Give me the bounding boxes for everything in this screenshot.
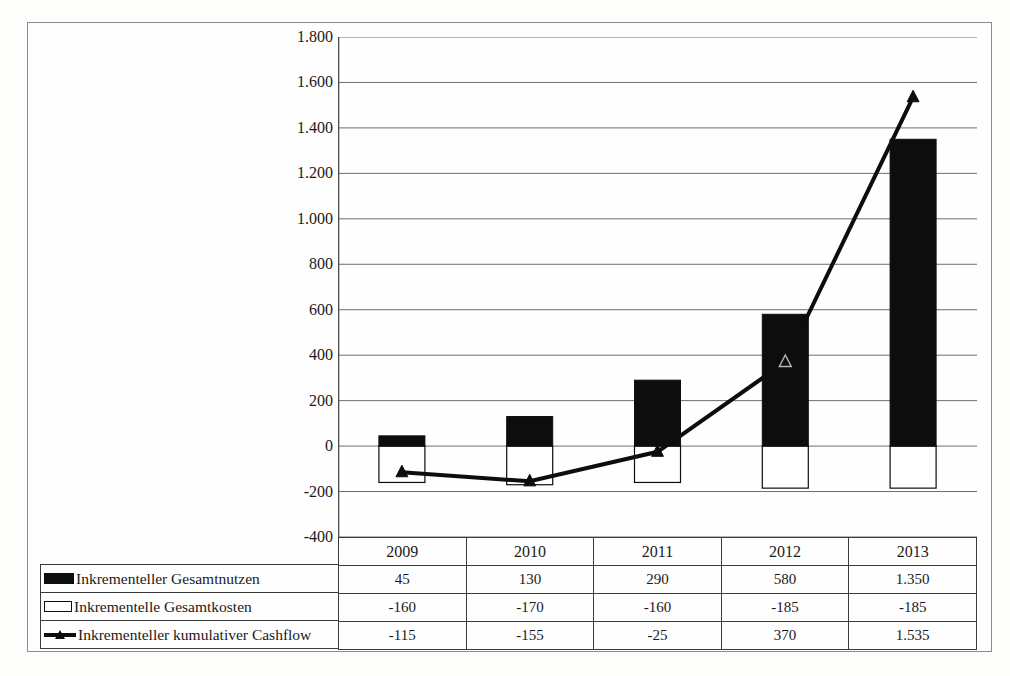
y-tick-label: 1.600 (275, 74, 333, 90)
table-cell-value: -115 (339, 622, 467, 650)
table-cell-value: -155 (466, 622, 594, 650)
legend-cell-cashflow: Inkrementeller kumulativer Cashflow (41, 621, 339, 649)
y-tick-label: 0 (275, 438, 333, 454)
table-row: -115-155-253701.535 (339, 622, 977, 650)
filled-rect-icon (44, 573, 74, 584)
table-cell-year: 2009 (339, 538, 467, 566)
legend-cell-cost: Inkrementelle Gesamtkosten (41, 593, 339, 621)
y-tick-label: 1.000 (275, 211, 333, 227)
plot-area (338, 37, 977, 537)
table-cell-year: 2011 (594, 538, 722, 566)
benefit-bars-group (379, 139, 936, 446)
y-tick-label: -200 (275, 484, 333, 500)
y-tick-label: 200 (275, 393, 333, 409)
legend-label-cashflow: Inkrementeller kumulativer Cashflow (78, 626, 311, 643)
table-cell-value: -160 (339, 594, 467, 622)
table-cell-value: -185 (849, 594, 977, 622)
table-cell-value: -160 (594, 594, 722, 622)
cost-bar (890, 446, 936, 488)
table-cell-value: 1.535 (849, 622, 977, 650)
plot-svg (338, 37, 977, 537)
benefit-bar (890, 139, 936, 446)
benefit-bar (379, 436, 425, 446)
table-cell-year: 2013 (849, 538, 977, 566)
chart-figure: 1.8001.6001.4001.2001.0008006004002000-2… (0, 0, 1010, 676)
benefit-bar (762, 314, 808, 446)
table-cell-year: 2012 (721, 538, 849, 566)
legend-label-cost: Inkrementelle Gesamtkosten (74, 598, 252, 615)
cashflow-marker (907, 90, 919, 102)
table-row-years: 20092010201120122013 (339, 538, 977, 566)
chart-legend: Inkrementeller Gesamtnutzen Inkrementell… (40, 564, 339, 649)
y-tick-label: 1.400 (275, 120, 333, 136)
table-cell-value: -25 (594, 622, 722, 650)
table-cell-value: -185 (721, 594, 849, 622)
table-cell-value: 290 (594, 566, 722, 594)
legend-row: Inkrementeller Gesamtnutzen (41, 565, 339, 593)
data-table: 20092010201120122013451302905801.350-160… (338, 537, 977, 650)
benefit-bar (635, 380, 681, 446)
table-cell-value: 370 (721, 622, 849, 650)
y-tick-label: 800 (275, 256, 333, 272)
table-row: -160-170-160-185-185 (339, 594, 977, 622)
cost-bar (762, 446, 808, 488)
table-cell-value: -170 (466, 594, 594, 622)
legend-row: Inkrementeller kumulativer Cashflow (41, 621, 339, 649)
table-cell-year: 2010 (466, 538, 594, 566)
hollow-rect-icon (44, 601, 72, 612)
y-tick-label: 400 (275, 347, 333, 363)
legend-cell-benefit: Inkrementeller Gesamtnutzen (41, 565, 339, 593)
y-tick-label: 600 (275, 302, 333, 318)
benefit-bar (507, 417, 553, 447)
table-cell-value: 130 (466, 566, 594, 594)
table-cell-value: 580 (721, 566, 849, 594)
table-cell-value: 1.350 (849, 566, 977, 594)
line-triangle-icon (44, 629, 76, 641)
table-row: 451302905801.350 (339, 566, 977, 594)
y-tick-label: 1.800 (275, 29, 333, 45)
y-tick-label: 1.200 (275, 165, 333, 181)
legend-label-benefit: Inkrementeller Gesamtnutzen (76, 570, 260, 587)
table-cell-value: 45 (339, 566, 467, 594)
legend-row: Inkrementelle Gesamtkosten (41, 593, 339, 621)
y-tick-label: -400 (275, 529, 333, 545)
